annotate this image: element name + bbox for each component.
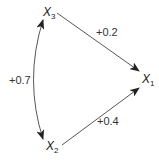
node-x3: X3	[43, 6, 55, 18]
edge-x3-x2-covariance	[34, 20, 44, 139]
node-x3-subscript: 3	[51, 12, 55, 21]
node-x1: X1	[142, 73, 154, 85]
node-x2: X2	[46, 140, 58, 152]
edge-weight-x3-x1: +0.2	[96, 27, 118, 38]
node-x1-label: X	[142, 72, 150, 86]
edge-x3-to-x1	[57, 13, 139, 71]
node-x2-label: X	[46, 139, 54, 153]
edge-weight-x3-x2: +0.7	[9, 75, 31, 86]
node-x1-subscript: 1	[150, 79, 154, 88]
node-x2-subscript: 2	[54, 146, 58, 155]
node-x3-label: X	[43, 5, 51, 19]
edge-weight-x2-x1: +0.4	[97, 116, 119, 127]
